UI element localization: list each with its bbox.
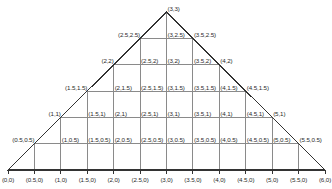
grid-lines-group	[34, 12, 298, 170]
triangle-lattice-svg	[0, 0, 332, 189]
diagram-canvas: (0.5,0.5)(1,0.5)(1.5,0.5)(2,0.5)(2.5,0.5…	[0, 0, 332, 189]
